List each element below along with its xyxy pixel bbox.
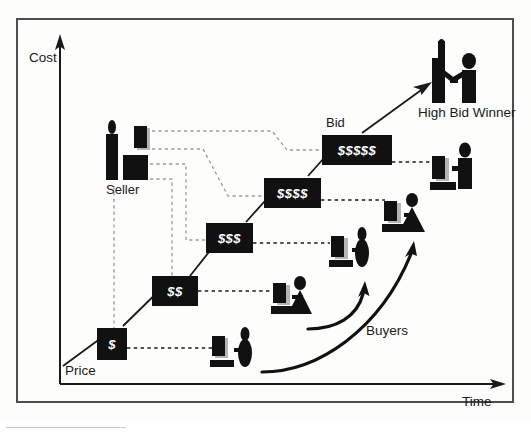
monitor-icon [384,201,397,221]
bid-step-value-2: $$ [152,276,198,306]
monitor-icon [331,236,344,257]
caption-strip [0,422,531,434]
bid-step-value-4: $$$$ [264,178,321,208]
high-bid-winner-label: High Bid Winner [418,105,516,120]
bid-label: Bid [326,115,345,130]
bottom-rule [6,427,126,428]
buyers-label: Buyers [366,323,408,338]
bid-step-value-1: $ [97,328,127,360]
bid-step-value-3: $$$ [206,223,253,253]
x-axis-label: Time [462,394,492,409]
bid-step-value-5: $$$$$ [322,135,392,165]
monitor-icon [134,126,147,148]
origin-price-label: Price [65,363,96,378]
keyboard-icon [329,260,353,267]
monitor-icon [212,336,225,356]
keyboard-icon [430,182,456,190]
diagram-canvas: Cost Time Price Seller Bid High Bid Winn… [0,0,531,434]
y-axis-label: Cost [29,50,57,65]
monitor-icon [432,156,445,179]
seller-label: Seller [106,182,139,197]
keyboard-icon [210,360,234,367]
keyboard-icon [123,155,148,180]
monitor-icon [273,283,286,303]
